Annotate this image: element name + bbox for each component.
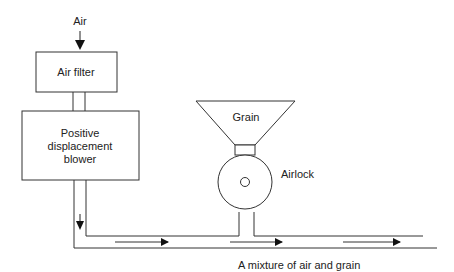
airlock-label: Airlock xyxy=(281,168,315,180)
blower-box: Positive displacement blower xyxy=(22,111,139,180)
output-label: A mixture of air and grain xyxy=(238,259,360,271)
blower-label-line1: Positive xyxy=(61,127,100,139)
hopper-collar xyxy=(235,145,255,155)
blower-label-line3: blower xyxy=(64,153,97,165)
down-flow-arrow-icon xyxy=(76,214,84,230)
grain-label: Grain xyxy=(233,111,260,123)
air-filter-box: Air filter xyxy=(36,52,117,92)
air-inlet-label: Air xyxy=(73,15,87,27)
grain-hopper: Grain xyxy=(196,101,295,145)
air-inlet-arrow-icon xyxy=(75,31,85,50)
filter-blower-connector xyxy=(73,92,85,111)
airlock-valve xyxy=(218,155,272,209)
blower-label-line2: displacement xyxy=(48,140,113,152)
pneumatic-conveying-diagram: Air Air filter Positive displacement blo… xyxy=(0,0,454,272)
air-filter-label: Air filter xyxy=(57,66,95,78)
